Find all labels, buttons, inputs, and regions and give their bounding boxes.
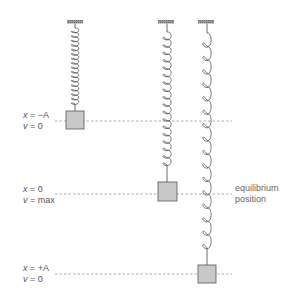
equilibrium-label-line1: equilibrium: [235, 183, 279, 194]
position-label-middle: x = 0 v = max: [23, 184, 55, 206]
equilibrium-position-label: equilibrium position: [235, 183, 279, 205]
v-label-bottom: v = 0: [23, 274, 49, 285]
position-label-bottom: x = +A v = 0: [23, 263, 49, 285]
spring-coil-icon: [163, 32, 171, 166]
v-label-middle: v = max: [23, 195, 55, 206]
v-label-top: v = 0: [23, 121, 49, 132]
position-label-top: x = −A v = 0: [23, 110, 49, 132]
spring-system-equilibrium: [158, 20, 177, 201]
mass-block-middle: [158, 182, 177, 201]
ceiling-mount-icon: [67, 20, 83, 24]
x-label-middle: x = 0: [23, 184, 55, 195]
x-label-bottom: x = +A: [23, 263, 49, 274]
spring-coil-icon: [203, 33, 211, 249]
ceiling-mount-icon: [198, 20, 214, 24]
ceiling-mount-icon: [158, 20, 174, 24]
spring-coil-icon: [71, 28, 79, 104]
equilibrium-label-line2: position: [235, 194, 279, 205]
mass-block-bottom: [198, 265, 216, 283]
x-label-top: x = −A: [23, 110, 49, 121]
mass-block-top: [66, 111, 84, 129]
spring-system-compressed: [66, 20, 84, 129]
spring-mass-diagram: [0, 0, 302, 300]
spring-system-stretched: [198, 20, 216, 283]
